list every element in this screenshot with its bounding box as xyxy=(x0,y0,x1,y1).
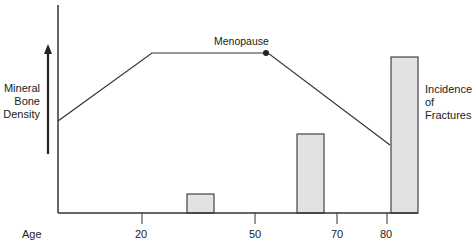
tick-label-50: 50 xyxy=(249,228,261,241)
tick-label-20: 20 xyxy=(135,228,147,241)
tick-label-70: 70 xyxy=(331,228,343,241)
up-arrow-icon xyxy=(44,44,52,54)
tick-label-80: 80 xyxy=(380,228,392,241)
bone-density-line xyxy=(58,53,390,145)
fracture-bar-2 xyxy=(297,134,324,213)
right-label-line2: of xyxy=(425,96,472,109)
fracture-bar-3 xyxy=(391,57,418,213)
right-label-line3: Fractures xyxy=(425,109,472,122)
y-axis-label: Mineral Bone Density xyxy=(2,82,40,121)
menopause-dot xyxy=(263,50,269,56)
y-label-line1: Mineral xyxy=(2,82,40,95)
menopause-annotation: Menopause xyxy=(214,35,269,48)
y-label-line3: Density xyxy=(2,108,40,121)
right-axis-label: Incidence of Fractures xyxy=(425,83,472,122)
y-label-line2: Bone xyxy=(2,95,40,108)
fracture-bar-1 xyxy=(187,194,214,213)
right-label-line1: Incidence xyxy=(425,83,472,96)
x-axis-label: Age xyxy=(22,228,42,241)
